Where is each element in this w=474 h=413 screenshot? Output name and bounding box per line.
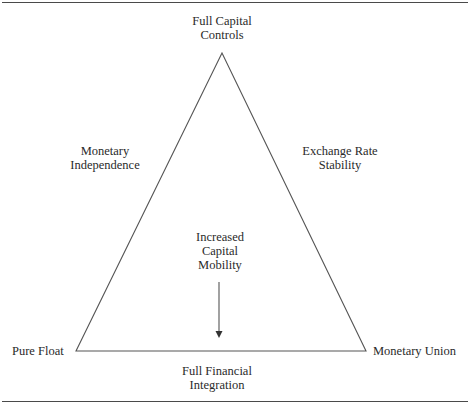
side-label-right: Exchange Rate Stability	[290, 144, 390, 172]
center-label: Increased Capital Mobility	[180, 230, 260, 272]
label-line: Independence	[55, 158, 155, 172]
vertex-label-top: Full Capital Controls	[172, 14, 272, 42]
vertex-label-bottom-right: Monetary Union	[373, 344, 473, 358]
label-line: Increased	[180, 230, 260, 244]
label-line: Exchange Rate	[290, 144, 390, 158]
label-line: Full Financial	[167, 364, 267, 378]
label-line: Stability	[290, 158, 390, 172]
side-label-left: Monetary Independence	[55, 144, 155, 172]
label-line: Monetary Union	[373, 344, 473, 358]
label-line: Controls	[172, 28, 272, 42]
label-line: Mobility	[180, 258, 260, 272]
label-line: Capital	[180, 244, 260, 258]
triangle	[76, 53, 366, 351]
label-line: Monetary	[55, 144, 155, 158]
label-line: Integration	[167, 378, 267, 392]
vertex-label-bottom-left: Pure Float	[12, 344, 72, 358]
arrow-down-icon	[216, 331, 223, 338]
label-line: Pure Float	[12, 344, 72, 358]
side-label-bottom: Full Financial Integration	[167, 364, 267, 392]
label-line: Full Capital	[172, 14, 272, 28]
